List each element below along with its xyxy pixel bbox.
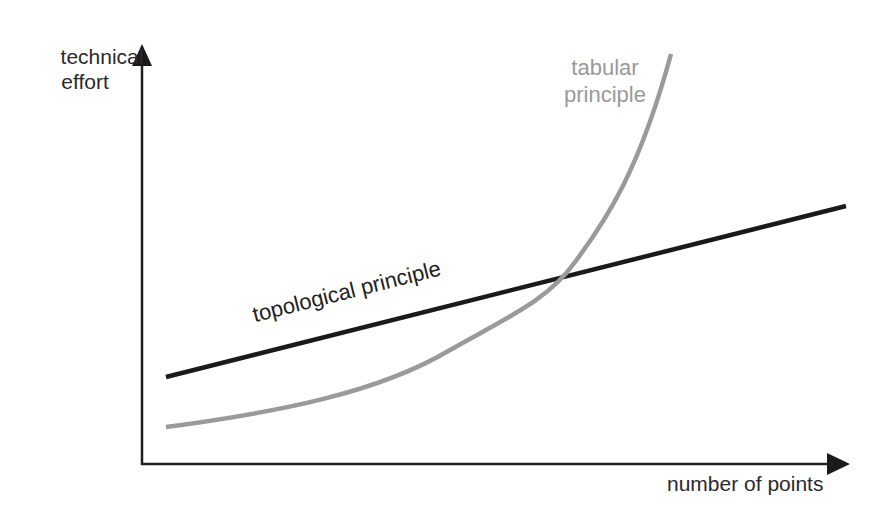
x-axis-arrow-icon — [827, 453, 850, 475]
tabular-curve — [166, 54, 671, 427]
x-axis-label: number of points — [667, 471, 823, 496]
y-axis-label-line2: effort — [56, 69, 148, 94]
topological-line — [166, 206, 846, 377]
y-axis-label: technical effort — [56, 44, 148, 94]
tabular-principle-label: tabular principle — [564, 54, 646, 108]
tabular-label-line1: tabular — [564, 54, 646, 81]
tabular-label-line2: principle — [564, 81, 646, 108]
y-axis-label-line1: technical — [56, 44, 148, 69]
